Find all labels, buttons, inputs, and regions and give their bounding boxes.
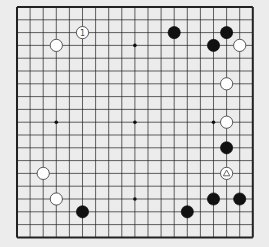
star-point xyxy=(55,120,59,124)
black-stone[interactable] xyxy=(181,206,193,218)
black-stone[interactable] xyxy=(221,142,233,154)
star-point xyxy=(212,120,216,124)
move-number: 1 xyxy=(80,29,85,38)
black-stone[interactable] xyxy=(76,206,88,218)
white-stone[interactable]: 1 xyxy=(76,26,88,38)
white-stone[interactable] xyxy=(221,116,233,128)
go-board[interactable]: 1 xyxy=(0,0,269,247)
black-stone[interactable] xyxy=(234,193,246,205)
white-stone[interactable] xyxy=(50,39,62,51)
star-point xyxy=(133,197,137,201)
black-stone[interactable] xyxy=(207,39,219,51)
white-stone[interactable] xyxy=(234,39,246,51)
white-stone[interactable] xyxy=(221,167,233,179)
white-stone[interactable] xyxy=(50,193,62,205)
star-point xyxy=(133,44,137,48)
white-stone[interactable] xyxy=(37,167,49,179)
black-stone[interactable] xyxy=(168,26,180,38)
white-stone[interactable] xyxy=(221,78,233,90)
star-point xyxy=(133,120,137,124)
black-stone[interactable] xyxy=(221,26,233,38)
black-stone[interactable] xyxy=(207,193,219,205)
